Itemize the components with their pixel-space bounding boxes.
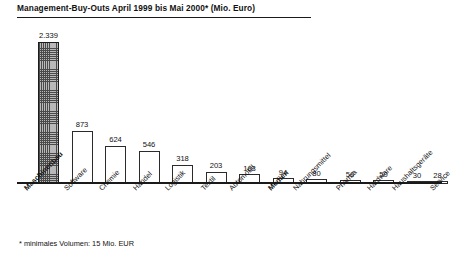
bar-value-label: 2.339	[19, 31, 79, 40]
footnote: * minimales Volumen: 15 Mio. EUR	[19, 239, 134, 248]
title-block: Management-Buy-Outs April 1999 bis Mai 2…	[17, 3, 317, 14]
bar-value-label: 546	[119, 140, 179, 149]
title-divider	[17, 17, 311, 18]
chart-title: Management-Buy-Outs April 1999 bis Mai 2…	[17, 3, 317, 14]
plot-area: 2.339 873 624 546 318 203 163 94	[0, 24, 461, 184]
x-axis-category-labels: Maschinenbau Software Chemie Handel Logi…	[0, 186, 461, 242]
bar-value-label: 873	[52, 120, 112, 129]
chart-figure: Management-Buy-Outs April 1999 bis Mai 2…	[0, 0, 461, 259]
